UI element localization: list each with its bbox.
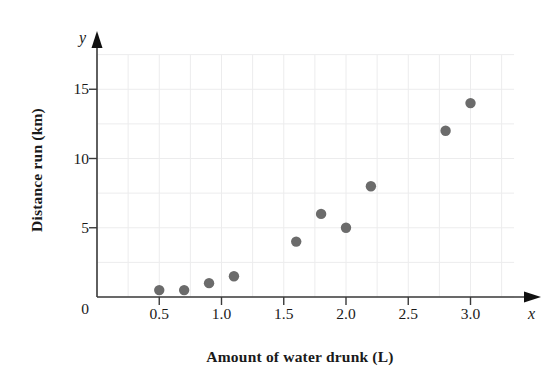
x-tick-label: 1.5: [274, 305, 293, 323]
scatter-plot-figure: 0.51.01.52.02.53.0051015 y x Distance ru…: [0, 0, 560, 388]
data-point: [154, 285, 164, 295]
x-tick-label: 2.5: [399, 305, 418, 323]
x-tick-label: 3.0: [461, 305, 480, 323]
data-point: [440, 126, 450, 136]
y-axis-title: Distance run (km): [22, 40, 52, 300]
data-point: [204, 278, 214, 288]
origin-label: 0: [75, 300, 89, 318]
data-point: [341, 223, 351, 233]
x-tick-label: 0.5: [150, 305, 169, 323]
plot-canvas: [0, 0, 560, 388]
data-point: [179, 285, 189, 295]
x-axis-symbol: x: [528, 305, 535, 323]
y-tick-label: 5: [61, 219, 89, 237]
x-tick-label: 2.0: [336, 305, 355, 323]
data-point: [366, 181, 376, 191]
data-point: [465, 98, 475, 108]
x-tick-label: 1.0: [212, 305, 231, 323]
gridlines: [97, 55, 514, 297]
y-axis-symbol: y: [79, 29, 86, 47]
data-point: [229, 271, 239, 281]
y-tick-label: 15: [61, 80, 89, 98]
x-axis-title: Amount of water drunk (L): [95, 348, 505, 366]
data-point: [316, 209, 326, 219]
y-tick-label: 10: [61, 150, 89, 168]
axis-ticks: [89, 89, 471, 305]
data-point: [291, 236, 301, 246]
